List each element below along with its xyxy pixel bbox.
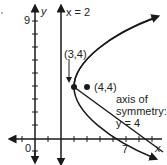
vertex-point xyxy=(71,84,77,90)
focus-label: (4,4) xyxy=(94,81,117,93)
axis-symmetry-line1: axis of xyxy=(116,93,149,105)
y-axis xyxy=(32,8,38,160)
parabola-graph: 9 y x = 2 (3,4) (4,4) axis of symmetry: … xyxy=(0,0,167,165)
origin-label: 0 xyxy=(25,142,31,154)
focus-point xyxy=(84,84,90,90)
axis-symmetry-line2: symmetry: xyxy=(116,105,167,117)
y-axis-label: y xyxy=(40,5,48,17)
stray-dot xyxy=(1,12,3,14)
x-tick-label-7: 7 xyxy=(122,143,128,155)
x-axis-label: x xyxy=(154,142,161,154)
vertical-line-label: x = 2 xyxy=(66,6,90,18)
y-tick-label-9: 9 xyxy=(24,14,30,26)
vertex-label: (3,4) xyxy=(64,48,87,60)
axis-symmetry-line3: y = 4 xyxy=(116,117,140,129)
